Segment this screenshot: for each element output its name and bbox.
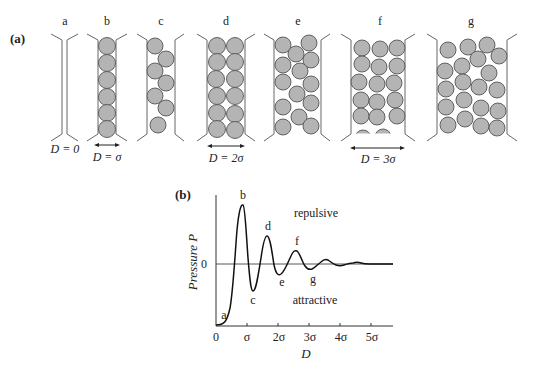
svg-text:a: a — [221, 308, 227, 322]
config-label-e: e — [295, 14, 300, 28]
wall-left — [51, 34, 62, 141]
svg-text:c: c — [250, 293, 255, 307]
config-a: a D = 0 — [50, 14, 80, 156]
separation-f: D = 3σ — [360, 152, 397, 166]
config-label-d: d — [223, 14, 229, 28]
config-e: e — [264, 14, 330, 141]
particles-b — [99, 38, 116, 138]
panel-b-label: (b) — [175, 187, 191, 202]
svg-text:0: 0 — [213, 330, 219, 344]
svg-text:b: b — [240, 188, 246, 202]
config-c: c — [137, 14, 184, 141]
attractive-label: attractive — [293, 293, 338, 307]
svg-text:2σ: 2σ — [273, 330, 286, 344]
svg-text:3σ: 3σ — [304, 330, 317, 344]
wall-right — [67, 34, 78, 141]
svg-text:d: d — [265, 219, 271, 233]
svg-text:f: f — [295, 234, 299, 248]
x-axis-label: D — [300, 346, 311, 361]
config-label-f: f — [378, 14, 382, 28]
separation-a: D = 0 — [50, 142, 80, 156]
svg-text:e: e — [279, 275, 284, 289]
y-tick-zero: 0 — [201, 257, 207, 271]
svg-text:5σ: 5σ — [366, 330, 379, 344]
x-tick-labels: 0 σ 2σ 3σ 4σ 5σ — [213, 330, 379, 344]
config-label-g: g — [468, 14, 474, 28]
config-g: g — [427, 14, 517, 141]
config-f: f D = 3σ — [341, 14, 415, 166]
figure-canvas: (a) a D = 0 b D = σ c d — [0, 0, 536, 369]
svg-text:g: g — [310, 272, 316, 286]
pressure-chart: 0 σ 2σ 3σ 4σ 5σ 0 Pressure P D a b c d e… — [185, 188, 393, 361]
config-d: d D = 2σ — [197, 14, 255, 165]
separation-b: D = σ — [92, 150, 123, 164]
y-axis-label: Pressure P — [185, 234, 200, 292]
config-label-a: a — [62, 14, 68, 28]
svg-text:σ: σ — [244, 330, 251, 344]
panel-a-label: (a) — [10, 31, 25, 46]
svg-text:4σ: 4σ — [335, 330, 348, 344]
config-label-c: c — [158, 14, 163, 28]
config-label-b: b — [104, 14, 110, 28]
repulsive-label: repulsive — [294, 206, 338, 220]
config-b: b D = σ — [87, 14, 127, 164]
separation-d: D = 2σ — [208, 151, 245, 165]
